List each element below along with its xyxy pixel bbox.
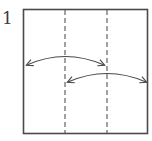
- paper-square: [24, 10, 148, 134]
- origami-step-diagram: [0, 0, 152, 141]
